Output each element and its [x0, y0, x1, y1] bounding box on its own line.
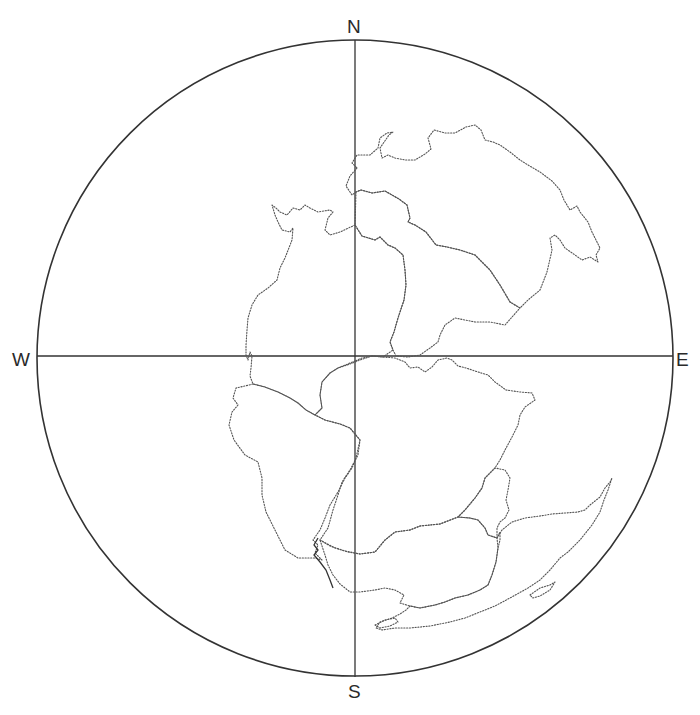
landmass-india: [458, 468, 510, 538]
globe-diagram: [0, 0, 700, 715]
landmass-australia: [376, 478, 612, 630]
landmass-antarctica: [320, 517, 500, 608]
compass-east-label: E: [676, 350, 689, 369]
compass-south-label: S: [348, 682, 361, 701]
landmass-north-america: [246, 205, 406, 415]
landmass-central-eurasia: [355, 190, 520, 357]
compass-west-label: W: [12, 350, 30, 369]
landmass-island-strip: [530, 582, 555, 598]
landmass-south-america: [229, 384, 360, 560]
compass-north-label: N: [347, 17, 361, 36]
landmass-africa: [315, 356, 535, 554]
landmass-north-eurasia: [346, 125, 600, 308]
landmass-island-small: [375, 618, 398, 628]
